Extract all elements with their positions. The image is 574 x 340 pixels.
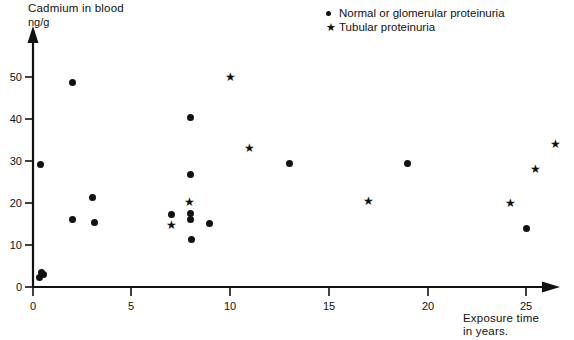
x-axis-title-line1: Exposure time [463,312,539,325]
data-point-circle [89,194,96,201]
y-tick-label: 50 [0,72,22,83]
data-point-circle [91,219,98,226]
x-tick-label: 10 [218,301,242,312]
y-tick-label: 40 [0,114,22,125]
y-tick-label: 0 [0,282,22,293]
y-tick-label: 30 [0,156,22,167]
data-point-star: ★ [550,138,562,150]
legend-item-label: Normal or glomerular proteinuria [339,6,505,20]
cadmium-exposure-scatter-chart: Cadmium in blood ng/g 0 10 [0,0,574,340]
x-axis-title-line2: in years. [463,325,539,338]
legend: Normal or glomerular proteinuria ★ Tubul… [326,6,505,34]
data-point-circle [523,225,530,232]
data-point-star: ★ [504,197,516,209]
data-point-circle [286,160,293,167]
x-tick-label: 5 [119,301,143,312]
legend-item-normal: Normal or glomerular proteinuria [326,6,505,20]
star-marker-icon: ★ [326,20,339,34]
x-axis-title: Exposure time in years. [463,312,539,338]
x-tick-label: 15 [317,301,341,312]
data-point-star: ★ [244,142,256,154]
y-tick-label: 20 [0,198,22,209]
axis-lines [0,0,574,340]
data-point-circle [206,220,213,227]
x-tick-label: 25 [514,301,538,312]
x-tick-label: 0 [21,301,45,312]
data-point-star: ★ [362,195,374,207]
circle-marker-icon [326,6,339,20]
legend-item-tubular: ★ Tubular proteinuria [326,20,505,34]
data-point-star: ★ [184,196,196,208]
data-point-circle [69,79,76,86]
data-point-star: ★ [165,219,177,231]
y-tick-label: 10 [0,240,22,251]
x-tick-label: 20 [416,301,440,312]
data-point-star: ★ [530,163,542,175]
data-point-star: ★ [224,71,236,83]
legend-item-label: Tubular proteinuria [339,20,435,34]
